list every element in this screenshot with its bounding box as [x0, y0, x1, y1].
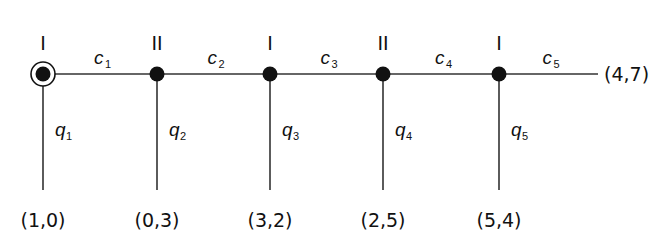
continue-label-2: c [208, 47, 218, 68]
quit-label-sub-1: 1 [66, 130, 72, 142]
decision-node-3 [263, 67, 278, 82]
decision-node-4 [376, 67, 391, 82]
player-label-2: II [151, 32, 162, 54]
game-tree-diagram: Ic1q1(1,0)IIc2q2(0,3)Ic3q3(3,2)IIc4q4(2,… [0, 0, 672, 247]
quit-label-sub-2: 2 [180, 130, 186, 142]
payoff-2: (0,3) [134, 209, 179, 231]
tree-svg: Ic1q1(1,0)IIc2q2(0,3)Ic3q3(3,2)IIc4q4(2,… [0, 0, 672, 247]
continue-label-sub-4: 4 [446, 58, 452, 70]
continue-label-sub-1: 1 [105, 58, 111, 70]
quit-label-5: q [511, 119, 522, 140]
continue-label-sub-5: 5 [554, 58, 560, 70]
decision-node-1 [36, 67, 51, 82]
payoff-1: (1,0) [20, 209, 65, 231]
continue-label-1: c [94, 47, 104, 68]
decision-node-5 [492, 67, 507, 82]
player-label-1: I [40, 32, 46, 54]
decision-node-2 [150, 67, 165, 82]
quit-label-3: q [282, 119, 293, 140]
continue-label-3: c [321, 47, 331, 68]
terminal-payoff: (4,7) [604, 63, 649, 85]
player-label-4: II [377, 32, 388, 54]
payoff-5: (5,4) [476, 209, 521, 231]
payoff-4: (2,5) [360, 209, 405, 231]
quit-label-sub-3: 3 [293, 130, 299, 142]
payoff-3: (3,2) [247, 209, 292, 231]
player-label-3: I [267, 32, 273, 54]
quit-label-2: q [169, 119, 180, 140]
quit-label-4: q [395, 119, 406, 140]
continue-label-sub-2: 2 [219, 58, 225, 70]
continue-label-4: c [435, 47, 445, 68]
quit-label-1: q [55, 119, 66, 140]
quit-label-sub-4: 4 [406, 130, 412, 142]
continue-label-sub-3: 3 [332, 58, 338, 70]
quit-label-sub-5: 5 [522, 130, 528, 142]
continue-label-5: c [543, 47, 553, 68]
player-label-5: I [496, 32, 502, 54]
